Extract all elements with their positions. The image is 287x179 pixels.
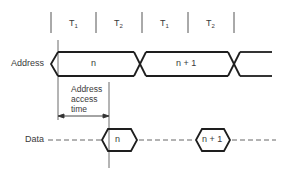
period-label-subscript: 2 [120,23,123,29]
data-signal-label: Data [25,135,44,144]
clock-period-label-2: T2 [114,19,123,29]
clock-period-label-3: T1 [160,19,169,29]
address-access-time-label: Address access time [71,84,111,114]
clock-period-label-4: T2 [206,19,215,29]
annotation-line-3: time [71,104,111,114]
data-bus-waveform [48,129,276,151]
period-label-subscript: 1 [166,23,169,29]
period-label-subscript: 2 [212,23,215,29]
timing-diagram-graphics [0,0,287,179]
clock-period-label-1: T1 [69,19,78,29]
annotation-line-2: access [71,94,111,104]
address-value-n: n [91,59,96,68]
address-value-n-plus-1: n + 1 [176,59,196,68]
address-bus-waveform [51,52,272,76]
data-value-n-plus-1: n + 1 [202,135,222,144]
address-signal-label: Address [11,59,44,68]
period-label-subscript: 1 [75,23,78,29]
data-value-n: n [115,135,120,144]
annotation-line-1: Address [71,84,111,94]
address-access-time-arrow [58,114,109,118]
timing-diagram: T1 T2 T1 T2 Address Data n n + 1 n n + 1… [0,0,287,179]
